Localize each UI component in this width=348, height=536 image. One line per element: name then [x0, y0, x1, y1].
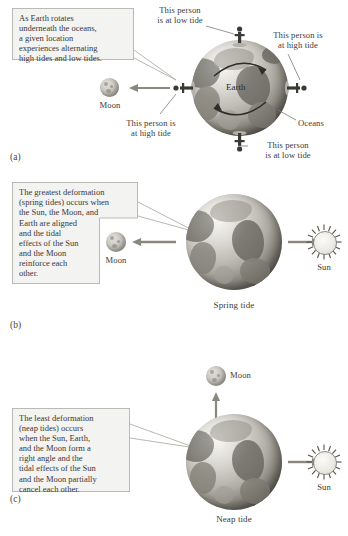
panel-a-rotation-arrow-bottom: [212, 96, 270, 122]
panel-b-caption: Spring tide: [194, 300, 274, 310]
panel-b-earth: [186, 194, 282, 290]
panel-c-earth: [186, 414, 282, 510]
panel-b-moon-arrow: [130, 236, 178, 248]
panel-c-callout-leader: [0, 352, 348, 536]
panel-b-callout-leader: [0, 172, 348, 362]
panel-a-oceans-leader: [0, 0, 348, 172]
panel-c-sun: [306, 444, 342, 480]
panel-c-caption: Neap tide: [194, 514, 274, 524]
figure-canvas: As Earth rotates underneath the oceans, …: [0, 0, 348, 536]
panel-c-sun-label: Sun: [304, 482, 344, 492]
panel-b: The greatest deformation (spring tides) …: [0, 172, 348, 362]
panel-a: As Earth rotates underneath the oceans, …: [0, 0, 348, 172]
panel-b-moon-label: Moon: [96, 255, 136, 265]
panel-a-letter: (a): [10, 152, 21, 162]
panel-b-sun: [306, 224, 342, 260]
panel-c-letter: (c): [10, 494, 21, 504]
panel-a-earth-label: Earth: [226, 82, 246, 92]
panel-b-sun-label: Sun: [304, 262, 344, 272]
panel-b-moon: [106, 232, 126, 252]
panel-b-letter: (b): [10, 320, 21, 330]
panel-c: Moon The least deformation (neap tides) …: [0, 352, 348, 536]
panel-a-rotation-arrow-top: [212, 56, 270, 82]
